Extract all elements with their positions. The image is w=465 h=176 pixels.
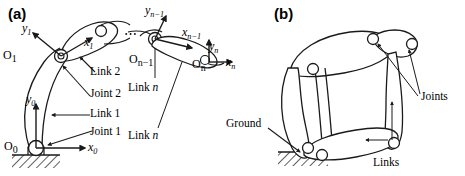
link-2-body [60, 21, 130, 61]
annotation-joint-1: Joint 1 [90, 126, 121, 138]
panel-b-drawing [268, 30, 420, 166]
axis-label-y1: y1 [22, 22, 31, 38]
annotation-link-2: Link 2 [90, 66, 120, 78]
figure-robot-kinematics: (a) y1 O1 x1 Link 2 Joint 2 Link 1 Joint… [0, 0, 465, 176]
origin-label-O0: O0 [4, 140, 18, 155]
axis-label-y-n-minus-1: yn−1 [145, 4, 164, 20]
annotation-link-n-lower: Link n [128, 130, 158, 142]
panel-a-id: (a) [8, 6, 26, 21]
panel-b-id: (b) [274, 6, 293, 21]
annotation-links: Links [373, 157, 399, 169]
axis-label-x0: x0 [88, 141, 97, 157]
annotation-link-n-upper: Link n [128, 82, 158, 94]
axis-label-x-n-minus-1: xn−1 [182, 26, 201, 42]
annotation-link-1: Link 1 [90, 108, 120, 120]
axis-label-xn: xn [226, 56, 235, 72]
linkage-link-middle [315, 68, 332, 142]
chain-ellipsis: ⋯ [124, 27, 138, 40]
figure-vector-graphics [0, 0, 465, 176]
joint-2-circle [96, 26, 107, 37]
annotation-ground: Ground [226, 118, 261, 130]
axis-label-y0: y0 [26, 93, 35, 109]
origin-label-O1: O1 [3, 49, 17, 64]
annotation-joints: Joints [421, 91, 448, 103]
axis-label-x1: x1 [84, 36, 93, 52]
axis-label-yn: yn [209, 40, 218, 56]
origin-label-O-n-minus-1: On−1 [129, 53, 153, 68]
ground-symbol-a [12, 155, 60, 168]
origin-label-On: On [192, 58, 206, 73]
annotation-joint-2: Joint 2 [90, 88, 121, 100]
